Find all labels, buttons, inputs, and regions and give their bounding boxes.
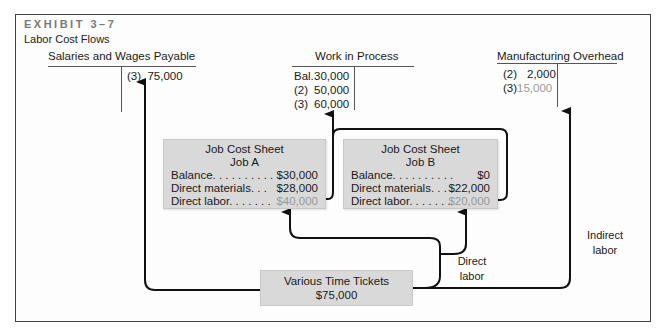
sheet-row-direct-labor: Direct labor. . . . . . .$20,000 (344, 195, 497, 208)
indirect-labor-label: Indirect labor (580, 228, 630, 258)
time-tickets-amount: $75,000 (261, 288, 412, 302)
sheet-row-direct-labor: Direct labor. . . . . . .$40,000 (164, 195, 325, 208)
sheet-row-direct-materials: Direct materials. . .$22,000 (344, 182, 497, 195)
sheet-job-name: Job A (164, 156, 325, 169)
time-tickets-title: Various Time Tickets (261, 274, 412, 288)
job-cost-sheet-b: Job Cost Sheet Job B Balance. . . . . . … (343, 139, 498, 209)
direct-labor-label: Direct labor (452, 254, 492, 284)
sheet-row-direct-materials: Direct materials. . .$28,000 (164, 182, 325, 195)
sheet-row-balance: Balance. . . . . . . . . .$30,000 (164, 169, 325, 182)
sheet-title: Job Cost Sheet (344, 143, 497, 156)
flow-time-tickets-to-job-b (440, 212, 466, 254)
sheet-title: Job Cost Sheet (164, 143, 325, 156)
sheet-row-balance: Balance. . . . . . . . . .$0 (344, 169, 497, 182)
job-cost-sheet-a: Job Cost Sheet Job A Balance. . . . . . … (163, 139, 326, 209)
various-time-tickets-box: Various Time Tickets $75,000 (260, 270, 413, 306)
sheet-job-name: Job B (344, 156, 497, 169)
